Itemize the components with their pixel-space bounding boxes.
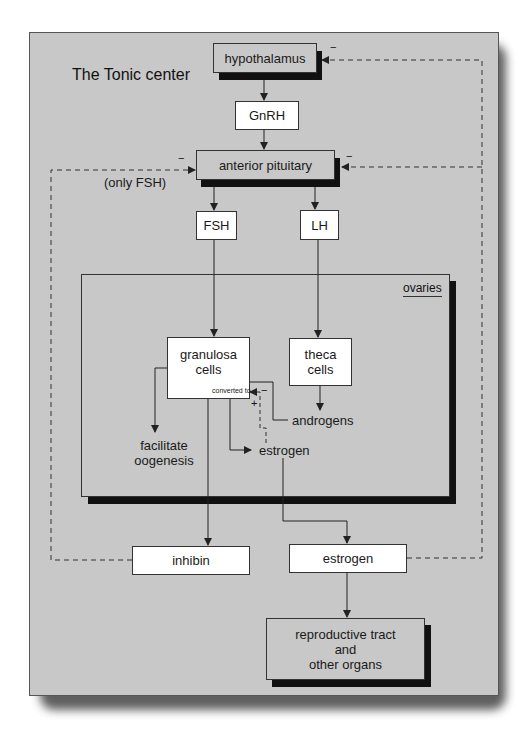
hypothalamus-label: hypothalamus	[225, 51, 306, 66]
facilitate-line2: oogenesis	[128, 453, 200, 468]
hypothalamus-inhibit-sign: −	[330, 41, 336, 53]
repro-label-line3: other organs	[309, 657, 382, 672]
pituitary-right-inhibit-sign: −	[346, 150, 352, 162]
converted-to-label: converted to	[212, 387, 251, 395]
lh-label: LH	[311, 218, 328, 233]
fsh-label: FSH	[204, 218, 230, 233]
estrogen-inner-label: estrogen	[259, 443, 310, 458]
theca-cells-node: theca cells	[289, 338, 352, 386]
conversion-inhibit-sign: −	[261, 384, 267, 396]
anterior-pituitary-node: anterior pituitary	[196, 150, 335, 180]
anterior-pituitary-label: anterior pituitary	[219, 158, 312, 173]
inhibin-node: inhibin	[132, 546, 250, 575]
only-fsh-note: (only FSH)	[104, 175, 166, 190]
facilitate-line1: facilitate	[128, 438, 200, 453]
granulosa-label-line2: cells	[195, 362, 221, 377]
theca-label-line1: theca	[305, 347, 337, 362]
reproductive-tract-node: reproductive tract and other organs	[266, 618, 425, 680]
theca-label-line2: cells	[307, 362, 333, 377]
repro-label-line1: reproductive tract	[295, 627, 395, 642]
hypothalamus-node: hypothalamus	[213, 43, 317, 73]
gnrh-label: GnRH	[249, 108, 285, 123]
conversion-stimulate-sign: +	[251, 397, 257, 409]
fsh-node: FSH	[196, 211, 237, 240]
facilitate-oogenesis-label: facilitate oogenesis	[128, 438, 200, 468]
estrogen-node: estrogen	[289, 544, 407, 573]
pituitary-left-inhibit-sign: −	[178, 152, 184, 164]
gnrh-node: GnRH	[235, 101, 299, 130]
granulosa-label-line1: granulosa	[180, 347, 237, 362]
lh-node: LH	[300, 210, 339, 240]
repro-label-line2: and	[335, 642, 357, 657]
inhibin-label: inhibin	[172, 553, 210, 568]
androgens-label: androgens	[292, 413, 353, 428]
estrogen-label: estrogen	[323, 551, 374, 566]
